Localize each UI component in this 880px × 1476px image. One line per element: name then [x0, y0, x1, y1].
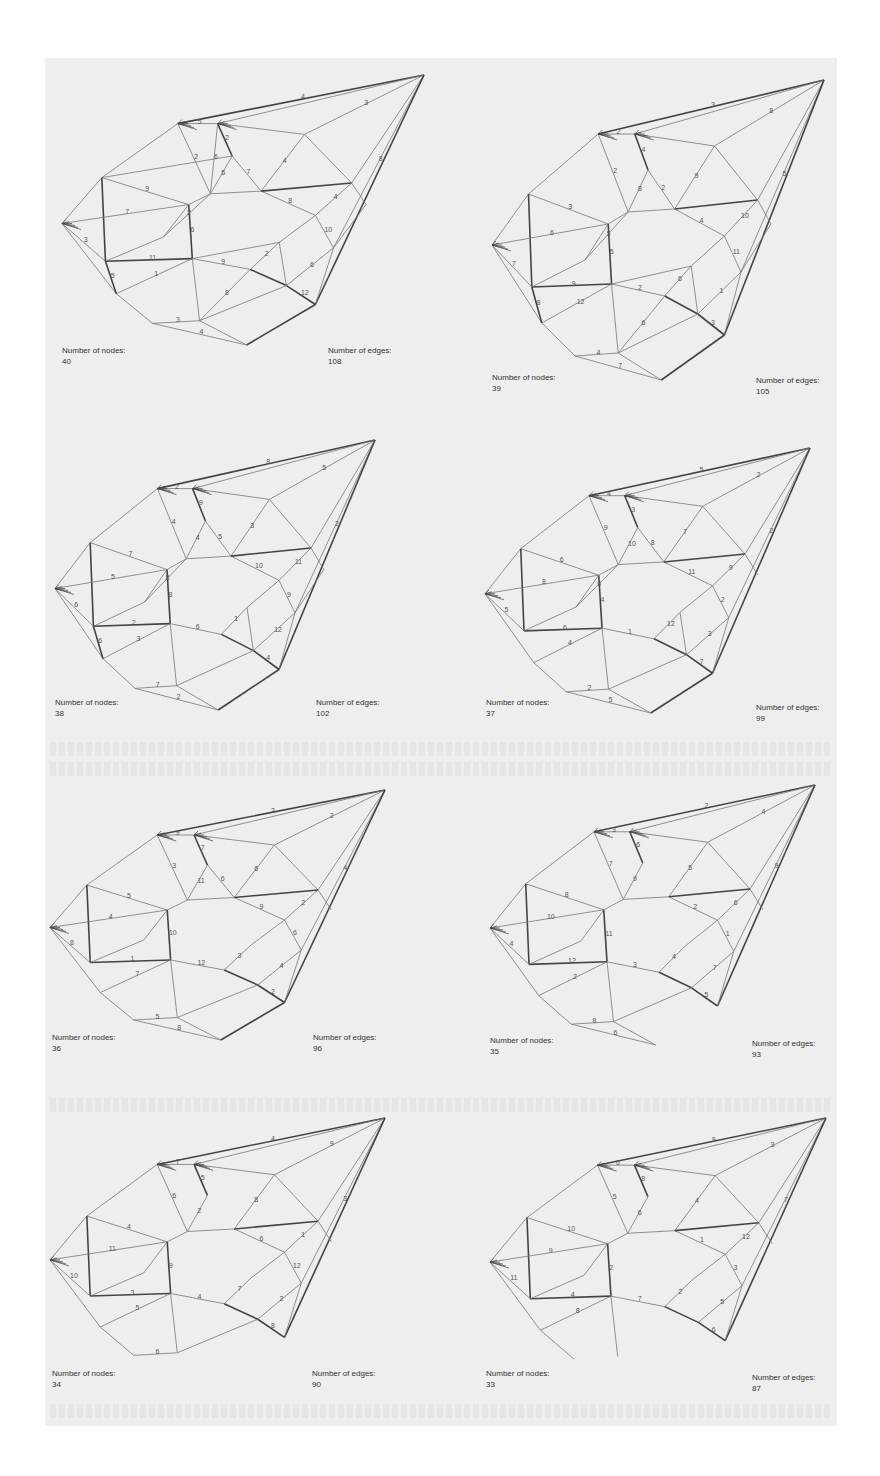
edge-weight-label: 9 [712, 1136, 716, 1143]
edge-count-label: Number of edges: [312, 1369, 376, 1378]
graph-edge [703, 506, 745, 554]
graph-edge [611, 1296, 618, 1356]
edge-weight-label: 6 [214, 153, 218, 160]
graph-edge [103, 659, 135, 689]
edge-weight-label: 9 [695, 172, 699, 179]
graph-edge [171, 1293, 178, 1352]
bleed-through-text [50, 762, 830, 776]
graph-edge [186, 556, 231, 559]
edge-weight-label: 3 [711, 101, 715, 108]
graph-edge [231, 548, 311, 556]
graph-edge [234, 1221, 318, 1229]
graph-edge [279, 613, 295, 670]
graph-edge [602, 628, 609, 689]
graph-edge [542, 323, 575, 356]
graph-edge [758, 80, 824, 200]
graph-edge [714, 146, 757, 200]
edge-weight-label: 8 [537, 299, 541, 306]
edge-weight-label: 9 [287, 591, 291, 598]
edge-weight-label: 3 [137, 635, 141, 642]
edge-weight-label: 7 [238, 1285, 242, 1292]
graph-edge [713, 448, 811, 673]
graph-edge [194, 1118, 385, 1164]
graph-edge [221, 634, 253, 650]
graph-edge [635, 134, 654, 140]
edge-weight-label: 2 [678, 1288, 682, 1295]
edge-weight-label: 2 [279, 1295, 283, 1302]
graph-edge [90, 489, 157, 543]
edge-weight-label: 4 [641, 146, 645, 153]
edge-weight-label: 2 [638, 284, 642, 291]
graph-edge [318, 790, 385, 890]
bleed-through-text [50, 1098, 830, 1112]
edge-weight-label: 7 [700, 658, 704, 665]
graph-edge [759, 1223, 772, 1244]
edge-count-value: 105 [756, 386, 820, 397]
edge-weight-label: 2 [613, 167, 617, 174]
node-count-value: 34 [52, 1379, 116, 1390]
edge-weight-label: 6 [74, 601, 78, 608]
edge-count-label: Number of edges: [756, 376, 820, 385]
graph-edge [634, 1118, 826, 1165]
edge-weight-label: 2 [301, 899, 305, 906]
edge-weight-label: 1 [726, 930, 730, 937]
graph-edge [285, 1118, 386, 1337]
edge-count-value: 87 [752, 1383, 816, 1394]
edge-count: Number of edges:102 [316, 697, 380, 719]
graph-edge [675, 1223, 759, 1231]
edge-weight-label: 1 [700, 1236, 704, 1243]
graph-edge [100, 1327, 134, 1355]
edge-weight-label: 11 [510, 1274, 517, 1281]
edge-weight-label: 4 [597, 349, 601, 356]
graph-edge [534, 663, 567, 692]
edge-weight-label: 2 [617, 128, 621, 135]
edge-count: Number of edges:87 [752, 1372, 816, 1394]
edge-weight-label: 5 [156, 1013, 160, 1020]
node-count-value: 33 [486, 1379, 550, 1390]
graph-edge [224, 1304, 258, 1319]
edge-weight-label: 1 [628, 628, 632, 635]
edge-weight-label: 6 [191, 226, 195, 233]
edge-weight-label: 5 [613, 1193, 617, 1200]
graph-drawing: 5224937658410119261123472586 [485, 448, 810, 713]
edge-weight-label: 7 [512, 260, 516, 267]
graph-edge [490, 1262, 540, 1330]
edge-weight-label: 6 [98, 637, 102, 644]
edge-weight-label: 4 [695, 1197, 699, 1204]
edge-weight-label: 5 [607, 230, 611, 237]
graph-edge [529, 194, 532, 287]
graph-edge [750, 889, 763, 910]
graph-edge [55, 589, 103, 659]
edge-weight-label: 4 [510, 940, 514, 947]
graph-edge [315, 248, 333, 305]
graph-edge [352, 183, 366, 205]
graph-edge [665, 1307, 699, 1323]
edge-weight-label: 11 [197, 877, 204, 884]
node-count-value: 35 [490, 1046, 554, 1057]
edge-weight-label: 4 [761, 808, 765, 815]
edge-count-label: Number of edges: [756, 703, 820, 712]
node-count-value: 38 [55, 708, 119, 719]
graph-edge [675, 200, 758, 209]
graph-edge [485, 594, 534, 663]
graph-edge [492, 245, 542, 323]
edge-weight-label: 7 [201, 844, 205, 851]
graph-edge [247, 607, 253, 650]
graph-edge [724, 80, 824, 335]
node-count: Number of nodes:36 [52, 1032, 116, 1054]
graph-edge [490, 1218, 527, 1263]
edge-weight-label: 4 [196, 534, 200, 541]
graph-edge [285, 790, 386, 1003]
graph-edge [718, 951, 734, 1006]
edge-weight-label: 4 [571, 1291, 575, 1298]
edge-weight-label: 4 [283, 157, 287, 164]
graph-edge [608, 212, 628, 224]
edge-weight-label: 6 [641, 319, 645, 326]
graph-edge [177, 651, 254, 686]
graph-edge [261, 183, 352, 191]
edge-count-value: 108 [328, 356, 392, 367]
edge-weight-label: 4 [672, 953, 676, 960]
graph-panel: 224937658410119261123472586 [50, 790, 385, 1040]
graph-edge [90, 1273, 144, 1296]
edge-weight-label: 6 [196, 623, 200, 630]
